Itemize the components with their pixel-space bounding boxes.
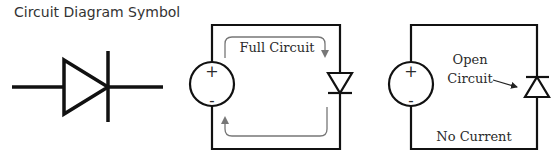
diode-triangle-icon	[64, 60, 108, 114]
bottom-wire	[212, 93, 340, 149]
forward-circuit: + - Full Circuit	[190, 25, 352, 149]
plus-terminal: +	[404, 62, 417, 81]
diode-forward-icon	[328, 73, 352, 93]
minus-terminal: -	[408, 91, 413, 110]
no-current-label: No Current	[436, 129, 512, 144]
diode-diagram: Circuit Diagram Symbol + - Full Circuit	[0, 0, 558, 163]
current-flow-arrow-bottom	[225, 107, 327, 136]
diode-reverse-icon	[525, 77, 549, 97]
pointer-arrow	[493, 80, 517, 87]
diode-symbol	[12, 51, 163, 122]
full-circuit-label: Full Circuit	[239, 40, 315, 55]
reverse-circuit: + - Open Circuit No Current	[389, 25, 549, 149]
open-label-line1: Open	[452, 52, 488, 67]
minus-terminal: -	[209, 91, 214, 110]
top-wire	[411, 25, 537, 77]
diagram-title: Circuit Diagram Symbol	[14, 4, 180, 20]
plus-terminal: +	[205, 62, 218, 81]
open-label-line2: Circuit	[447, 71, 493, 86]
